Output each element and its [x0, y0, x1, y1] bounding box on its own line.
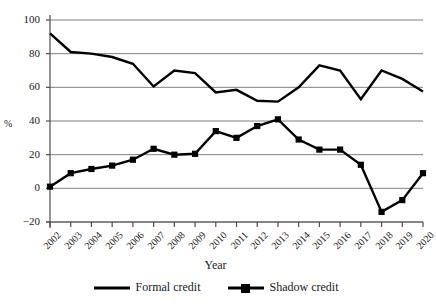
chart-legend: Formal credit Shadow credit [0, 280, 431, 295]
legend-item-formal-credit: Formal credit [93, 280, 201, 295]
x-axis-title: Year [0, 258, 431, 273]
legend-label-shadow-credit: Shadow credit [270, 280, 339, 295]
legend-item-shadow-credit: Shadow credit [227, 280, 339, 295]
legend-label-formal-credit: Formal credit [136, 280, 201, 295]
legend-line-icon [93, 282, 131, 294]
legend-line-square-icon [227, 282, 265, 294]
